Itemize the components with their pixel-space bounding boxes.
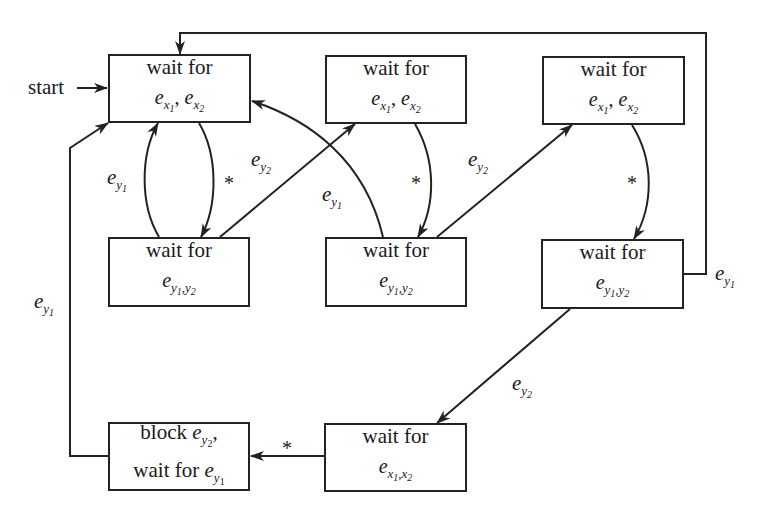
node-n3-wait-for-ex1-ex2: wait for ex1, ex2 xyxy=(542,56,685,125)
label-ey1-n7-n1: ey1 xyxy=(34,290,54,324)
label-ey1-n6-n1: ey1 xyxy=(715,262,735,296)
node-n4-wait-for-ey1y2: wait for ey1,y2 xyxy=(108,237,250,307)
node-n8-wait-for-ex1x2: wait for ex1,x2 xyxy=(324,423,467,492)
label-ey1-n4-n1: ey1 xyxy=(107,166,127,200)
node-title: wait for xyxy=(363,238,429,262)
label-ey2-n4-n2: ey2 xyxy=(251,148,271,182)
edge-n5-to-n3-ey2 xyxy=(437,125,572,237)
node-n7-block-ey2-wait-ey1: block ey2, wait for ey1 xyxy=(108,422,250,491)
label-ey1-n5-n1: ey1 xyxy=(322,183,342,217)
label-ey2-n6-n8: ey2 xyxy=(512,372,532,406)
node-n2-wait-for-ex1-ex2: wait for ex1, ex2 xyxy=(325,55,467,124)
label-star-n2-n5: * xyxy=(411,172,421,194)
edge-n1-to-n4-star xyxy=(199,123,214,237)
edge-n7-to-n1-ey1 xyxy=(70,123,108,456)
edge-n6-to-n8-ey2 xyxy=(437,309,570,423)
node-events: wait for ey1 xyxy=(133,457,224,495)
label-star-n1-n4: * xyxy=(224,172,234,194)
label-star-n8-n7: * xyxy=(282,437,292,459)
edge-n4-to-n2-ey2 xyxy=(220,124,355,237)
node-title: wait for xyxy=(363,56,429,80)
node-title: wait for xyxy=(146,238,212,262)
node-events: ex1, ex2 xyxy=(371,84,420,124)
node-title: wait for xyxy=(581,57,647,81)
edge-n4-to-n1-ey1 xyxy=(145,123,159,237)
label-star-n3-n6: * xyxy=(627,172,637,194)
node-n5-wait-for-ey1y2: wait for ey1,y2 xyxy=(325,237,467,307)
label-ey2-n5-n3: ey2 xyxy=(468,148,488,182)
start-label: start xyxy=(28,76,64,98)
node-title: wait for xyxy=(147,55,213,79)
node-events: ex1,x2 xyxy=(379,452,413,492)
node-title: wait for xyxy=(580,240,646,264)
node-events: ex1, ex2 xyxy=(589,85,638,125)
node-events: ey1,y2 xyxy=(379,266,413,306)
node-title: block ey2, xyxy=(140,419,217,457)
node-title: wait for xyxy=(363,424,429,448)
node-events: ey1,y2 xyxy=(596,268,630,308)
node-n1-wait-for-ex1-ex2: wait for ex1, ex2 xyxy=(108,54,251,123)
node-n6-wait-for-ey1y2: wait for ey1,y2 xyxy=(541,239,684,309)
node-events: ex1, ex2 xyxy=(155,83,204,123)
node-events: ey1,y2 xyxy=(162,266,196,306)
